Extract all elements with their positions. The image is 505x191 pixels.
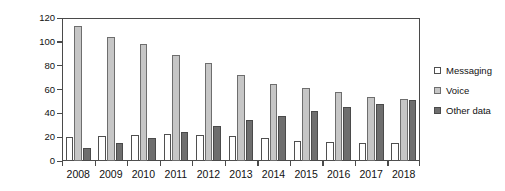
- bar-voice-2013: [237, 75, 245, 161]
- bar-voice-2014: [270, 84, 278, 161]
- y-axis-tick-label: 120: [39, 12, 55, 24]
- x-axis-tick-mark: [355, 161, 356, 166]
- bar-group: [66, 18, 91, 161]
- bar-messaging-2013: [229, 136, 237, 161]
- bar-group: [98, 18, 123, 161]
- messaging-swatch-icon: [434, 67, 441, 74]
- chart-legend: MessagingVoiceOther data: [434, 63, 504, 123]
- bar-messaging-2011: [164, 134, 172, 161]
- x-axis-ticks: 2008200920102011201220132014201520162017…: [62, 161, 420, 191]
- bar-otherdata-2010: [148, 138, 156, 161]
- bar-chart: Annual revenue (billion Euros) 020406080…: [0, 0, 505, 191]
- bar-voice-2018: [400, 99, 408, 161]
- bar-otherdata-2012: [213, 126, 221, 161]
- bar-otherdata-2009: [116, 143, 124, 161]
- bar-voice-2011: [172, 55, 180, 161]
- y-axis-tick-label: 100: [39, 36, 55, 48]
- y-axis-tick: 100: [0, 36, 62, 48]
- x-axis-tick-mark: [192, 161, 193, 166]
- bar-voice-2008: [74, 26, 82, 161]
- legend-item-otherdata[interactable]: Other data: [434, 103, 504, 118]
- bar-group: [164, 18, 189, 161]
- bars-layer: [62, 18, 420, 161]
- bar-group: [326, 18, 351, 161]
- x-axis-tick-mark: [127, 161, 128, 166]
- bar-group: [131, 18, 156, 161]
- voice-swatch-icon: [434, 87, 441, 94]
- bar-messaging-2012: [196, 135, 204, 161]
- y-axis-tick: 120: [0, 12, 62, 24]
- bar-otherdata-2014: [278, 116, 286, 161]
- bar-group: [261, 18, 286, 161]
- x-axis-tick-mark: [225, 161, 226, 166]
- y-axis-tick-label: 40: [44, 107, 55, 119]
- bar-voice-2009: [107, 37, 115, 161]
- bar-otherdata-2015: [311, 111, 319, 161]
- y-axis-tick: 40: [0, 107, 62, 119]
- bar-group: [294, 18, 319, 161]
- x-axis-tick-mark: [419, 161, 420, 166]
- bar-voice-2012: [205, 63, 213, 161]
- bar-messaging-2010: [131, 135, 139, 161]
- bar-otherdata-2013: [246, 120, 254, 161]
- legend-label: Voice: [446, 85, 469, 96]
- bar-otherdata-2008: [83, 148, 91, 161]
- y-axis-tick: 60: [0, 84, 62, 96]
- bar-group: [229, 18, 254, 161]
- bar-voice-2016: [335, 92, 343, 161]
- bar-messaging-2017: [359, 143, 367, 161]
- bar-messaging-2016: [326, 142, 334, 161]
- y-axis-tick-label: 20: [44, 131, 55, 143]
- x-axis-label-2018: 2018: [384, 168, 424, 180]
- legend-label: Other data: [446, 105, 491, 116]
- y-axis-tick: 80: [0, 60, 62, 72]
- x-axis-tick-mark: [160, 161, 161, 166]
- x-axis-tick-mark: [290, 161, 291, 166]
- x-axis-tick-mark: [387, 161, 388, 166]
- bar-group: [391, 18, 416, 161]
- bar-otherdata-2018: [409, 100, 417, 161]
- bar-group: [196, 18, 221, 161]
- bar-voice-2010: [140, 44, 148, 161]
- x-axis-tick-mark: [257, 161, 258, 166]
- bar-messaging-2008: [66, 137, 74, 161]
- legend-item-voice[interactable]: Voice: [434, 83, 504, 98]
- y-axis-tick-label: 80: [44, 60, 55, 72]
- bar-messaging-2014: [261, 138, 269, 161]
- y-axis-tick-label: 0: [50, 155, 55, 167]
- y-axis-tick-label: 60: [44, 84, 55, 96]
- bar-voice-2017: [367, 97, 375, 161]
- bar-messaging-2009: [98, 136, 106, 161]
- x-axis-tick-mark: [62, 161, 63, 166]
- bar-group: [359, 18, 384, 161]
- x-axis-tick-mark: [95, 161, 96, 166]
- bar-otherdata-2017: [376, 104, 384, 161]
- y-axis-tick: 0: [0, 155, 62, 167]
- legend-label: Messaging: [446, 65, 492, 76]
- x-axis-tick-mark: [322, 161, 323, 166]
- y-axis-tick: 20: [0, 131, 62, 143]
- y-axis-ticks: 020406080100120: [0, 0, 62, 191]
- bar-otherdata-2011: [181, 132, 189, 161]
- legend-item-messaging[interactable]: Messaging: [434, 63, 504, 78]
- bar-voice-2015: [302, 88, 310, 161]
- other-data-swatch-icon: [434, 107, 441, 114]
- bar-messaging-2018: [391, 143, 399, 161]
- bar-otherdata-2016: [343, 107, 351, 161]
- bar-messaging-2015: [294, 141, 302, 161]
